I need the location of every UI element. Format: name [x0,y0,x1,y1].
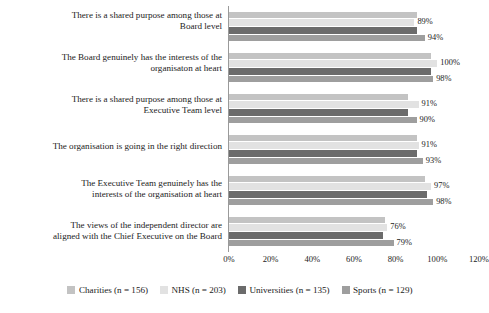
category-label-line: organisaton at heart [62,63,222,74]
category-label-line: Board level [72,21,222,32]
bar-charities [229,217,385,224]
category-label: The organisation is going in the right d… [0,126,228,168]
legend-label: NHS (n = 203) [172,285,226,295]
bar-group: 97%98% [229,170,480,211]
legend-label: Charities (n = 156) [79,285,148,295]
bar-universities [229,232,383,239]
category-label-line: The Executive Team genuinely has the [81,178,222,189]
bar-row [229,150,480,157]
legend-item[interactable]: Sports (n = 129) [342,285,413,295]
bar-row: 79% [229,240,480,247]
legend-item[interactable]: Universities (n = 135) [238,285,330,295]
category-label: The views of the independent director ar… [0,210,228,252]
category-label: There is a shared purpose among those at… [0,84,228,126]
legend-swatch-icon [67,286,75,294]
bar-universities [229,68,431,75]
category-label-line: There is a shared purpose among those at [72,10,222,21]
bar-group: 76%79% [229,211,480,252]
legend-swatch-icon [160,286,168,294]
x-axis-tick-label: 100% [427,254,447,264]
legend-label: Sports (n = 129) [353,285,412,295]
x-axis-tick-label: 60% [346,254,362,264]
bar-value-label: 79% [397,239,412,247]
bar-row: 89% [229,19,480,26]
bar-universities [229,109,408,116]
bar-charities [229,12,417,19]
legend-item[interactable]: NHS (n = 203) [160,285,226,295]
bar-sports [229,117,417,124]
category-label-line: The organisation is going in the right d… [53,141,222,152]
bar-group: 91%90% [229,88,480,129]
bar-row: 91% [229,142,480,149]
legend-swatch-icon [342,286,350,294]
bar-row: 93% [229,158,480,165]
bar-value-label: 89% [417,18,432,26]
bar-row [229,232,480,239]
bar-nhs [229,60,437,67]
bar-value-label: 90% [420,116,435,124]
bar-universities [229,150,417,157]
bar-sports [229,76,433,83]
bar-sports [229,199,433,206]
bar-row: 90% [229,117,480,124]
chart-legend: Charities (n = 156)NHS (n = 203)Universi… [0,285,480,295]
bar-row: 98% [229,76,480,83]
bar-universities [229,191,427,198]
bar-value-label: 93% [426,157,441,165]
category-label-line: Executive Team level [72,105,222,116]
bar-row [229,135,480,142]
category-label-line: The Board genuinely has the interests of… [62,52,222,63]
plot-area: There is a shared purpose among those at… [0,0,480,268]
bar-charities [229,176,425,183]
bar-universities [229,27,417,34]
bar-value-label: 97% [434,182,449,190]
x-axis-tick-label: 80% [388,254,404,264]
bars-region: 89%94%100%98%91%90%91%93%97%98%76%79% [228,0,480,252]
bar-nhs [229,142,419,149]
legend-label: Universities (n = 135) [249,285,329,295]
bar-value-label: 91% [422,100,437,108]
bar-charities [229,94,408,101]
bar-row [229,94,480,101]
category-label-line: The views of the independent director ar… [53,220,222,231]
category-label: The Board genuinely has the interests of… [0,42,228,84]
bar-value-label: 98% [436,198,451,206]
bar-sports [229,158,423,165]
bar-nhs [229,183,431,190]
bar-value-label: 76% [390,223,405,231]
bar-nhs [229,101,419,108]
bar-charities [229,53,431,60]
bar-nhs [229,19,414,26]
category-label-line: aligned with the Chief Executive on the … [53,231,222,242]
bar-group: 91%93% [229,129,480,170]
bar-row: 97% [229,183,480,190]
bar-value-label: 100% [440,59,460,67]
bar-row: 91% [229,101,480,108]
bar-row: 94% [229,35,480,42]
category-label: There is a shared purpose among those at… [0,0,228,42]
bar-sports [229,240,394,247]
bar-value-label: 94% [428,34,443,42]
x-axis-tick-label: 120% [469,254,489,264]
bar-row: 100% [229,60,480,67]
bar-row [229,217,480,224]
category-axis-labels: There is a shared purpose among those at… [0,0,228,252]
legend-swatch-icon [238,286,246,294]
bar-sports [229,35,425,42]
bar-row [229,109,480,116]
bar-groups: 89%94%100%98%91%90%91%93%97%98%76%79% [229,6,480,252]
value-axis-ticks: 0%20%40%60%80%100%120% [228,254,480,270]
bar-group: 89%94% [229,6,480,47]
x-axis-tick-label: 0% [223,254,234,264]
category-label-line: There is a shared purpose among those at [72,94,222,105]
bar-nhs [229,224,387,231]
category-label-line: interests of the organisation at heart [81,189,222,200]
x-axis-tick-label: 40% [304,254,320,264]
bar-value-label: 98% [436,75,451,83]
bar-value-label: 91% [422,141,437,149]
bar-charities [229,135,417,142]
category-label: The Executive Team genuinely has theinte… [0,168,228,210]
bar-group: 100%98% [229,47,480,88]
legend-item[interactable]: Charities (n = 156) [67,285,148,295]
